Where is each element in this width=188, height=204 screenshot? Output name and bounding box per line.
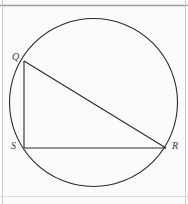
chord-q-r — [24, 61, 166, 148]
geometry-diagram-svg — [0, 0, 188, 204]
circumscribed-circle — [10, 19, 178, 187]
vertex-label-s: S — [11, 141, 16, 151]
geometry-figure-canvas: Q S R — [0, 0, 188, 204]
vertex-label-q: Q — [12, 52, 19, 62]
vertex-label-r: R — [172, 141, 178, 151]
